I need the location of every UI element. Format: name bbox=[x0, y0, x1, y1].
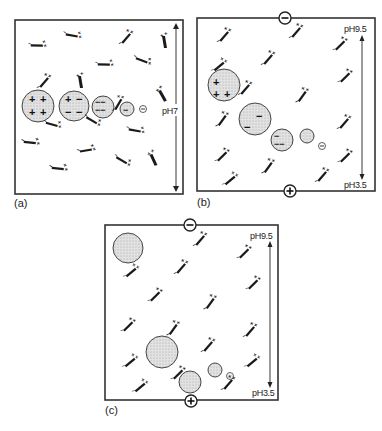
ph-bottom-label: pH3.5 bbox=[252, 388, 275, 398]
anode-icon bbox=[185, 395, 197, 407]
protein-mixed: − − bbox=[239, 103, 271, 135]
svg-text:+: + bbox=[65, 93, 71, 105]
svg-text:−: − bbox=[256, 110, 262, 122]
protein-small: − bbox=[120, 102, 134, 116]
svg-text:−: − bbox=[76, 93, 82, 105]
anion-icon bbox=[319, 143, 326, 150]
panel-b-frame bbox=[197, 18, 375, 191]
cathode-icon bbox=[184, 219, 196, 231]
ph-label: pH7 bbox=[162, 106, 178, 116]
panel-c: pH9.5 pH3.5 bbox=[105, 219, 278, 416]
protein-pi-mid bbox=[146, 336, 178, 368]
protein-pi-high bbox=[113, 233, 143, 263]
protein-positive: ++ ++ bbox=[22, 90, 54, 122]
svg-text:−: − bbox=[123, 105, 128, 115]
panel-b: pH9.5 pH3.5 + ++ − − − −− bbox=[197, 12, 375, 208]
panel-label-a: (a) bbox=[14, 197, 27, 209]
svg-text:+: + bbox=[40, 106, 46, 118]
protein-small bbox=[300, 129, 314, 143]
ph-bottom-label: pH3.5 bbox=[344, 180, 367, 190]
panel-a: pH7 ++ ++ +− −− −− −− − bbox=[14, 20, 183, 209]
protein-pi-low bbox=[179, 371, 201, 393]
anion-icon bbox=[140, 106, 147, 113]
ph-gradient-arrow bbox=[360, 35, 365, 180]
svg-text:+: + bbox=[29, 93, 35, 105]
ief-diagram: + + − + + pH7 ++ ++ +− −− bbox=[0, 0, 382, 431]
ph-gradient-arrow bbox=[268, 241, 273, 388]
svg-text:+: + bbox=[40, 93, 46, 105]
svg-text:−: − bbox=[76, 106, 82, 118]
ph-top-label: pH9.5 bbox=[250, 231, 273, 241]
panel-label-c: (c) bbox=[105, 404, 118, 416]
protein-pi-lower bbox=[208, 363, 222, 377]
svg-text:+: + bbox=[213, 88, 219, 100]
svg-text:−−: −− bbox=[274, 139, 285, 149]
protein-positive: + ++ bbox=[208, 69, 240, 101]
panel-label-b: (b) bbox=[197, 196, 210, 208]
ph-top-label: pH9.5 bbox=[344, 24, 367, 34]
ampholytes bbox=[208, 20, 356, 188]
cathode-icon bbox=[279, 12, 291, 24]
protein-negative: − −− bbox=[271, 129, 293, 151]
svg-text:−: − bbox=[65, 106, 71, 118]
svg-text:+: + bbox=[213, 76, 219, 88]
anode-icon bbox=[284, 185, 296, 197]
svg-text:+: + bbox=[29, 106, 35, 118]
svg-text:+: + bbox=[224, 88, 230, 100]
svg-text:−−: −− bbox=[95, 105, 106, 115]
svg-text:−: − bbox=[244, 121, 250, 133]
